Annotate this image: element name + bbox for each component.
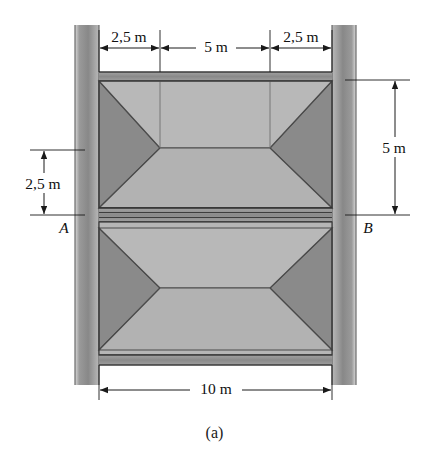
figure-caption: (a) — [0, 424, 429, 442]
left-dimension: 2,5 m — [14, 150, 85, 215]
support-label-a: A — [58, 219, 69, 236]
figure-container: 2,5 m 5 m 2,5 m 2,5 m 5 m A B 10 m — [0, 0, 429, 463]
support-label-b: B — [363, 219, 373, 236]
dim-top-center-label: 5 m — [204, 38, 228, 55]
right-column — [332, 25, 356, 385]
slab-diagram-svg: 2,5 m 5 m 2,5 m 2,5 m 5 m A B 10 m — [0, 0, 429, 463]
upper-panel — [99, 72, 332, 208]
left-column — [75, 25, 99, 385]
dim-top-left-label: 2,5 m — [111, 28, 146, 45]
dim-top-right-label: 2,5 m — [283, 28, 318, 45]
dim-right-vertical-label: 5 m — [382, 139, 406, 156]
top-dimension-chain: 2,5 m 5 m 2,5 m — [99, 28, 332, 72]
central-beam — [99, 208, 332, 222]
upper-top-beam — [99, 72, 332, 81]
dim-left-vertical-label: 2,5 m — [25, 175, 60, 192]
dim-bottom-overall-label: 10 m — [200, 380, 231, 397]
lower-panel — [99, 222, 332, 365]
bottom-dimension: 10 m — [99, 365, 332, 400]
lower-bottom-beam — [99, 355, 332, 365]
